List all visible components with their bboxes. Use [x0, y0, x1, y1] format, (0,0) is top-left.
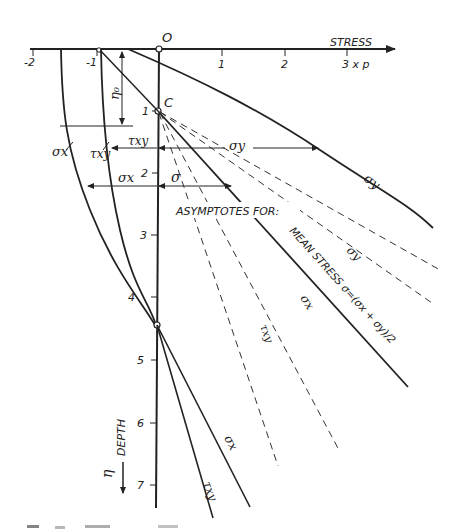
sigma-y-asymptote-label: σy — [344, 243, 365, 264]
tau-xy-left-label: τxy — [90, 147, 110, 161]
depth-tick-2: 2 — [141, 167, 148, 180]
sigma-dimension-label: σ — [171, 169, 181, 185]
depth-symbol: η — [99, 469, 115, 478]
depth-axis-label: DEPTH — [115, 419, 128, 456]
stress-axis — [30, 49, 395, 56]
tau-xy-asymptote — [159, 113, 278, 466]
stress-tick-neg1: -1 — [86, 56, 97, 69]
asymptotes-title: ASYMPTOTES FOR: — [175, 205, 279, 218]
tau-xy-bottom-label: τxy — [200, 479, 220, 503]
stress-tick-1: 1 — [218, 58, 225, 71]
mean-stress-asymptote — [158, 111, 408, 387]
origin-label: O — [162, 30, 172, 45]
sigma-x-dimension-label: σx — [118, 170, 135, 185]
depth-tick-5: 5 — [137, 354, 144, 367]
sigma-x-asymptote-label: σx — [297, 292, 317, 312]
stress-depth-diagram: -2 -1 1 2 3 x p STRESS O 1 2 3 4 5 6 7 D… — [0, 0, 455, 531]
tau-xy-dimension-label: τxy — [128, 134, 148, 148]
depth-tick-3: 3 — [140, 229, 147, 242]
sigma-x-bottom-label: σx — [221, 433, 240, 453]
sigma-y-dimension-label: σy — [229, 138, 246, 153]
depth-tick-6: 6 — [137, 417, 144, 430]
stress-tick-2: 2 — [281, 58, 288, 71]
stress-unit-label: 3 x p — [342, 58, 370, 71]
extra-asymptote — [160, 112, 440, 270]
depth-tick-7: 7 — [137, 479, 144, 492]
stress-tick-neg2: -2 — [24, 56, 35, 69]
point-c-label: C — [164, 95, 174, 110]
mean-stress-label: MEAN STRESS σ=(σx + σy)/2 — [288, 224, 399, 346]
eta0-label: η₀ — [107, 86, 122, 100]
sigma-x-left-label: σx — [52, 144, 69, 159]
sigma-x-lower-branch — [157, 325, 250, 507]
depth-tick-1: 1 — [142, 105, 149, 118]
stress-axis-label: STRESS — [330, 36, 372, 49]
caption-remnant — [27, 525, 178, 529]
